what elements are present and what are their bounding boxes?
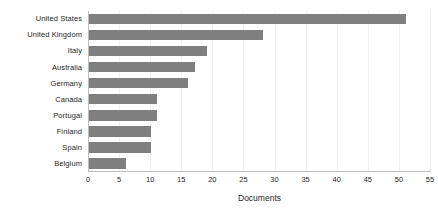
category-label: Finland	[0, 128, 82, 136]
x-tick-label: 15	[177, 176, 185, 184]
category-label: Canada	[0, 96, 82, 104]
bar-row: Spain	[0, 140, 438, 156]
category-label: Portugal	[0, 112, 82, 120]
x-tick-label: 50	[395, 176, 403, 184]
bar-row: Finland	[0, 124, 438, 140]
x-tick-label: 30	[270, 176, 278, 184]
bar-row: Italy	[0, 43, 438, 59]
x-tick-label: 20	[208, 176, 216, 184]
x-tick-label: 55	[426, 176, 434, 184]
x-axis-title: Documents	[88, 194, 431, 203]
bar-track	[89, 75, 431, 91]
bar[interactable]	[89, 62, 195, 72]
category-label: Belgium	[0, 160, 82, 168]
bar[interactable]	[89, 78, 188, 88]
x-tick-label: 5	[117, 176, 121, 184]
bar-track	[89, 91, 431, 107]
bar-track	[89, 108, 431, 124]
x-tick-label: 25	[239, 176, 247, 184]
x-tick-label: 10	[146, 176, 154, 184]
bar[interactable]	[89, 94, 157, 104]
bar-row: United Kingdom	[0, 27, 438, 43]
bar-row: Canada	[0, 91, 438, 107]
category-label: Spain	[0, 144, 82, 152]
x-axis-tick-labels: 0510152025303540455055	[0, 176, 438, 188]
category-label: United States	[0, 15, 82, 23]
bar-track	[89, 124, 431, 140]
category-label: Germany	[0, 80, 82, 88]
category-label: United Kingdom	[0, 31, 82, 39]
bar-track	[89, 140, 431, 156]
bar[interactable]	[89, 126, 151, 136]
bar-row: Portugal	[0, 108, 438, 124]
x-tick-label: 0	[86, 176, 90, 184]
bar[interactable]	[89, 110, 157, 120]
bar-track	[89, 27, 431, 43]
bar[interactable]	[89, 46, 207, 56]
bar-row: United States	[0, 11, 438, 27]
category-label: Italy	[0, 47, 82, 55]
bar-row: Germany	[0, 75, 438, 91]
bar-row: Australia	[0, 59, 438, 75]
bar-chart: United StatesUnited KingdomItalyAustrali…	[0, 0, 438, 214]
bar[interactable]	[89, 30, 263, 40]
x-tick-label: 35	[301, 176, 309, 184]
bar-track	[89, 59, 431, 75]
category-label: Australia	[0, 64, 82, 72]
x-tick-label: 45	[364, 176, 372, 184]
bar-rows: United StatesUnited KingdomItalyAustrali…	[0, 11, 438, 172]
x-tick-label: 40	[333, 176, 341, 184]
bar-track	[89, 43, 431, 59]
bar-row: Belgium	[0, 156, 438, 172]
bar-track	[89, 156, 431, 172]
bar[interactable]	[89, 142, 151, 152]
bar[interactable]	[89, 14, 406, 24]
bar[interactable]	[89, 158, 126, 168]
bar-track	[89, 11, 431, 27]
